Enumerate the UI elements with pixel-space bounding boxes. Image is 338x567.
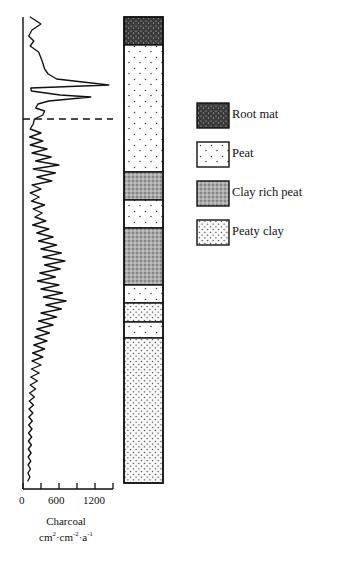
strat-layer-7 (124, 322, 163, 338)
x-tick-label-1200: 1200 (83, 494, 105, 506)
strat-layer-4 (124, 228, 163, 285)
strat-layer-2 (124, 172, 163, 200)
strat-layer-0 (124, 17, 163, 45)
units-cm: cm (39, 531, 52, 543)
legend-label-clay-rich-peat: Clay rich peat (232, 185, 302, 200)
charcoal-stratigraphy-figure: 0 600 1200 Charcoal cm2·cm-2·a-1 Root ma… (0, 0, 338, 567)
x-tick-label-0: 0 (19, 494, 25, 506)
legend-label-peat: Peat (232, 146, 254, 161)
units-sup-3: -1 (87, 530, 93, 537)
strat-layer-5 (124, 285, 163, 303)
x-axis-title-line1: Charcoal (0, 515, 132, 527)
legend-swatch-clay-rich-peat (197, 181, 229, 206)
legend-swatch-peaty-clay (197, 220, 229, 245)
figure-canvas (0, 0, 338, 567)
legend-swatch-root-mat (197, 103, 229, 128)
stratigraphic-column (124, 17, 163, 483)
strat-layer-1 (124, 45, 163, 172)
x-axis-title-units: cm2·cm-2·a-1 (0, 531, 132, 543)
legend-swatches (197, 103, 229, 245)
charcoal-curve (28, 17, 109, 481)
units-a: ·a (79, 531, 88, 543)
legend-label-peaty-clay: Peaty clay (232, 224, 284, 239)
strat-layer-8 (124, 338, 163, 483)
x-axis-ticks (23, 483, 113, 489)
charcoal-curve-panel (23, 17, 113, 489)
strat-layer-6 (124, 303, 163, 322)
x-tick-label-600: 600 (48, 494, 65, 506)
units-cm2: ·cm (56, 531, 73, 543)
legend-label-root-mat: Root mat (232, 107, 278, 122)
strat-layer-3 (124, 200, 163, 228)
legend-swatch-peat (197, 142, 229, 167)
